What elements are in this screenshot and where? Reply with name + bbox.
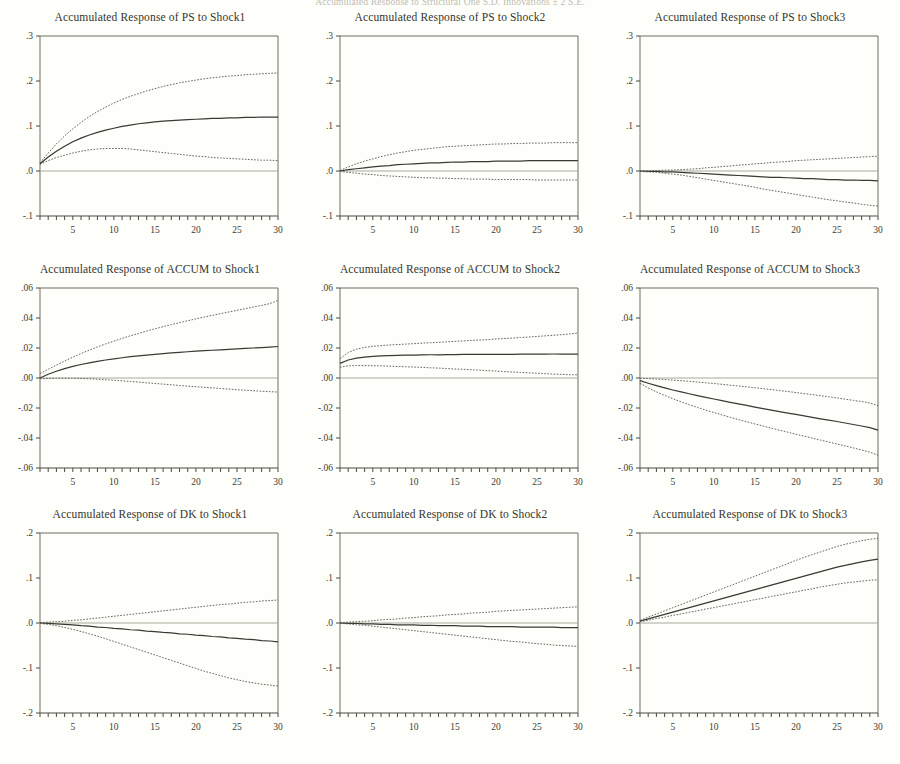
y-tick-label: .3 xyxy=(626,31,633,41)
y-tick-label: .3 xyxy=(326,31,333,41)
series-confidence-band xyxy=(640,156,878,171)
panel-title: Accumulated Response of ACCUM to Shock2 xyxy=(300,258,600,278)
x-tick-label: 5 xyxy=(370,477,375,487)
x-tick-label: 10 xyxy=(709,225,719,235)
panel-title: Accumulated Response of DK to Shock2 xyxy=(300,503,600,523)
series-confidence-band xyxy=(340,366,578,375)
x-tick-label: 30 xyxy=(273,722,283,732)
y-tick-label: -.1 xyxy=(23,211,34,221)
y-tick-label: .1 xyxy=(26,573,33,583)
series-confidence-band xyxy=(40,149,278,165)
x-tick-label: 15 xyxy=(750,722,760,732)
x-tick-label: 5 xyxy=(670,225,675,235)
y-tick-label: .0 xyxy=(626,166,633,176)
series-confidence-band xyxy=(40,378,278,392)
x-tick-label: 30 xyxy=(873,477,883,487)
x-tick-label: 25 xyxy=(532,477,542,487)
y-tick-label: .00 xyxy=(621,373,633,383)
series-point-estimate xyxy=(340,623,578,628)
panel-title: Accumulated Response of PS to Shock3 xyxy=(600,6,900,26)
y-tick-label: .1 xyxy=(326,121,333,131)
y-tick-label: -.02 xyxy=(618,403,633,413)
y-tick-label: -.02 xyxy=(318,403,333,413)
series-point-estimate xyxy=(40,623,278,642)
y-tick-label: -.06 xyxy=(18,463,33,473)
x-tick-label: 10 xyxy=(709,722,719,732)
x-tick-label: 30 xyxy=(273,477,283,487)
x-tick-label: 5 xyxy=(70,225,75,235)
x-tick-label: 25 xyxy=(232,722,242,732)
series-confidence-band xyxy=(340,171,578,180)
y-tick-label: .0 xyxy=(26,618,33,628)
plot-area: .06.04.02.00-.02-.04-.0651015202530 xyxy=(600,278,900,498)
plot-svg: .06.04.02.00-.02-.04-.0651015202530 xyxy=(300,278,600,498)
plot-svg: .06.04.02.00-.02-.04-.0651015202530 xyxy=(0,278,300,498)
y-tick-label: -.04 xyxy=(318,433,333,443)
x-tick-label: 5 xyxy=(370,722,375,732)
chart-panel: Accumulated Response of DK to Shock3.2.1… xyxy=(600,503,900,764)
y-tick-label: .2 xyxy=(26,528,33,538)
y-tick-label: .02 xyxy=(321,343,333,353)
series-confidence-band xyxy=(40,300,278,373)
y-tick-label: -.04 xyxy=(18,433,33,443)
x-tick-label: 15 xyxy=(150,477,160,487)
y-tick-label: .0 xyxy=(326,618,333,628)
x-tick-label: 15 xyxy=(150,225,160,235)
x-tick-label: 5 xyxy=(370,225,375,235)
plot-area: .2.1.0-.1-.251015202530 xyxy=(300,523,600,743)
x-tick-label: 10 xyxy=(109,722,119,732)
y-tick-label: -.04 xyxy=(618,433,633,443)
x-tick-label: 20 xyxy=(791,722,801,732)
x-tick-label: 20 xyxy=(491,225,501,235)
series-confidence-band xyxy=(640,538,878,620)
y-tick-label: .06 xyxy=(321,283,333,293)
y-tick-label: -.1 xyxy=(623,663,634,673)
y-tick-label: .2 xyxy=(326,76,333,86)
series-point-estimate xyxy=(340,354,578,363)
y-tick-label: .0 xyxy=(326,166,333,176)
y-tick-label: .1 xyxy=(626,121,633,131)
series-confidence-band xyxy=(340,607,578,623)
series-point-estimate xyxy=(40,117,278,164)
y-tick-label: .00 xyxy=(21,373,33,383)
x-tick-label: 15 xyxy=(750,477,760,487)
plot-area: .2.1.0-.1-.251015202530 xyxy=(0,523,300,743)
plot-area: .3.2.1.0-.151015202530 xyxy=(600,26,900,246)
y-tick-label: .1 xyxy=(326,573,333,583)
series-point-estimate xyxy=(640,381,878,431)
plot-frame xyxy=(40,36,278,216)
x-tick-label: 30 xyxy=(573,477,583,487)
plot-area: .3.2.1.0-.151015202530 xyxy=(0,26,300,246)
x-tick-label: 10 xyxy=(409,477,419,487)
x-tick-label: 10 xyxy=(709,477,719,487)
y-tick-label: .02 xyxy=(621,343,633,353)
chart-panel: Accumulated Response of PS to Shock3.3.2… xyxy=(600,6,900,258)
chart-panel: Accumulated Response of PS to Shock1.3.2… xyxy=(0,6,300,258)
x-tick-label: 25 xyxy=(232,477,242,487)
x-tick-label: 25 xyxy=(532,225,542,235)
x-tick-label: 25 xyxy=(232,225,242,235)
y-tick-label: .2 xyxy=(626,76,633,86)
series-confidence-band xyxy=(40,623,278,686)
panel-title: Accumulated Response of DK to Shock1 xyxy=(0,503,300,523)
y-tick-label: .0 xyxy=(26,166,33,176)
plot-svg: .3.2.1.0-.151015202530 xyxy=(300,26,600,246)
panel-title: Accumulated Response of ACCUM to Shock1 xyxy=(0,258,300,278)
x-tick-label: 15 xyxy=(450,722,460,732)
y-tick-label: .2 xyxy=(26,76,33,86)
x-tick-label: 10 xyxy=(109,477,119,487)
y-tick-label: .00 xyxy=(321,373,333,383)
y-tick-label: -.06 xyxy=(618,463,633,473)
y-tick-label: -.2 xyxy=(323,708,334,718)
x-tick-label: 5 xyxy=(70,722,75,732)
x-tick-label: 30 xyxy=(573,722,583,732)
x-tick-label: 20 xyxy=(191,722,201,732)
chart-panel: Accumulated Response of PS to Shock2.3.2… xyxy=(300,6,600,258)
y-tick-label: -.06 xyxy=(318,463,333,473)
plot-svg: .06.04.02.00-.02-.04-.0651015202530 xyxy=(600,278,900,498)
plot-area: .06.04.02.00-.02-.04-.0651015202530 xyxy=(0,278,300,498)
y-tick-label: .06 xyxy=(621,283,633,293)
y-tick-label: .2 xyxy=(626,528,633,538)
x-tick-label: 10 xyxy=(409,722,419,732)
y-tick-label: .1 xyxy=(26,121,33,131)
